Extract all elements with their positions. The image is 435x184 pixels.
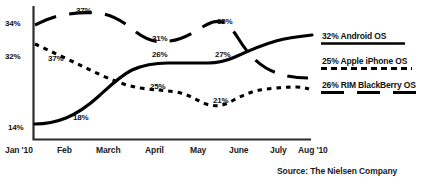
data-label-blackberry-feb: 37% (76, 6, 91, 15)
chart-container: 34% 37% 37% 31% 35% 32% 25% 21% 14% 18% … (0, 0, 435, 184)
data-label-android-apr: 26% (152, 50, 167, 59)
series-line-apple-iphone (35, 44, 309, 106)
x-tick-aug: Aug '10 (298, 145, 328, 155)
x-tick-april: April (145, 145, 164, 155)
data-label-blackberry-jun: 35% (217, 17, 232, 26)
x-tick-june: June (229, 145, 248, 155)
data-label-iphone-apr: 25% (150, 82, 165, 91)
legend-label-rim-blackberry: 26% RIM BlackBerry OS (322, 80, 416, 90)
data-label-blackberry-jan: 34% (5, 19, 20, 28)
series-line-android (35, 35, 312, 124)
legend-item-apple-iphone[interactable]: 25% Apple iPhone OS (322, 56, 407, 66)
legend-item-android[interactable]: 32% Android OS (322, 31, 386, 41)
data-label-android-jan: 14% (8, 123, 23, 132)
data-label-android-jun: 27% (215, 50, 230, 59)
x-tick-july: July (270, 145, 287, 155)
x-tick-feb: Feb (57, 145, 72, 155)
data-label-iphone-mar: 37% (48, 54, 63, 63)
legend-item-rim-blackberry[interactable]: 26% RIM BlackBerry OS (322, 80, 416, 90)
legend-label-apple-iphone: 25% Apple iPhone OS (322, 56, 407, 66)
x-tick-march: March (96, 145, 121, 155)
line-chart-plot (0, 0, 435, 184)
data-label-iphone-jan: 32% (5, 52, 20, 61)
legend-label-android: 32% Android OS (322, 31, 386, 41)
data-label-android-feb: 18% (73, 113, 88, 122)
data-label-iphone-jun: 21% (213, 96, 228, 105)
x-tick-jan: Jan '10 (5, 145, 33, 155)
x-tick-may: May (190, 145, 206, 155)
source-credit: Source: The Nielsen Company (277, 166, 397, 176)
data-label-blackberry-apr: 31% (152, 34, 167, 43)
